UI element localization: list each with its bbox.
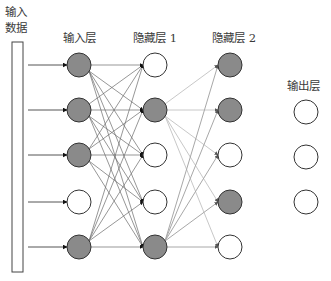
hidden1-node-4-dropped bbox=[143, 190, 167, 214]
edge bbox=[165, 65, 218, 241]
edges-input-to-hidden1 bbox=[89, 65, 143, 247]
hidden2-node-5-dropped bbox=[218, 235, 242, 259]
edges-hidden1-to-hidden2 bbox=[165, 65, 218, 247]
hidden2-node-1-active bbox=[218, 53, 242, 77]
output-node-1-dropped bbox=[294, 100, 318, 124]
hidden1-node-5-active bbox=[143, 235, 167, 259]
hidden1-node-1-dropped bbox=[143, 53, 167, 77]
output-node-3-dropped bbox=[294, 190, 318, 214]
edge bbox=[89, 65, 143, 104]
edge bbox=[89, 71, 143, 155]
hidden1-node-2-active bbox=[143, 98, 167, 122]
input-arrows bbox=[28, 65, 67, 247]
edge bbox=[89, 161, 143, 247]
input-node-5-active bbox=[67, 235, 91, 259]
network-graph bbox=[0, 0, 331, 281]
input-data-bar bbox=[12, 42, 23, 272]
hidden2-node-3-dropped bbox=[218, 143, 242, 167]
input-node-3-active bbox=[67, 143, 91, 167]
output-node-2-dropped bbox=[294, 145, 318, 169]
input-node-2-active bbox=[67, 98, 91, 122]
hidden2-node-4-active bbox=[218, 190, 242, 214]
input-node-1-active bbox=[67, 53, 91, 77]
edge bbox=[165, 65, 218, 104]
input-node-4-dropped bbox=[67, 190, 91, 214]
dropout-network-diagram: 输入 数据 输入层 隐藏层 1 隐藏层 2 输出层 bbox=[0, 0, 331, 281]
hidden2-node-2-active bbox=[218, 98, 242, 122]
hidden1-node-3-dropped bbox=[143, 143, 167, 167]
